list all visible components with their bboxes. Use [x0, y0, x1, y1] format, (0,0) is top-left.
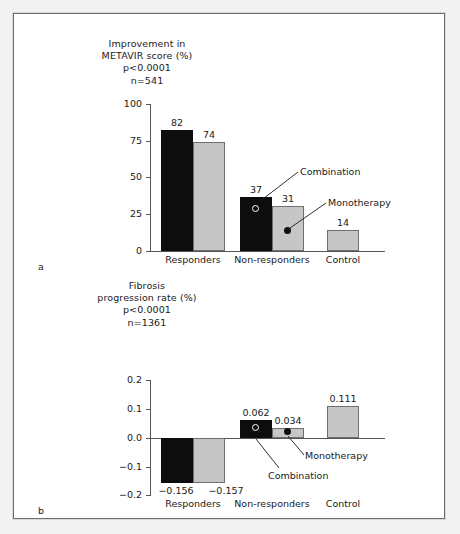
panel-a-annotation-monotherapy: Monotherapy [328, 197, 391, 208]
panel-a-category-nonresponders: Non-responders [227, 254, 317, 265]
figure-frame: Improvement in METAVIR score (%) p<0.000… [13, 13, 445, 519]
panel-a-letter: a [38, 261, 44, 272]
panel-a-category-responders: Responders [153, 254, 233, 265]
figure-canvas: Improvement in METAVIR score (%) p<0.000… [22, 22, 436, 510]
panel-a-plot-area: 0 25 50 75 100 82 74 37 31 [22, 22, 436, 272]
panel-b-category-nonresponders: Non-responders [227, 498, 317, 509]
panel-b-leader-lines [22, 272, 436, 512]
panel-b-letter: b [38, 505, 44, 516]
panel-b-annotation-combination: Combination [268, 470, 328, 481]
panel-b-category-control: Control [314, 498, 372, 509]
panel-a-category-control: Control [314, 254, 372, 265]
panel-a-annotation-combination: Combination [300, 166, 360, 177]
panel-b-fibrosis-chart: Fibrosis progression rate (%) p<0.0001 n… [22, 272, 436, 512]
panel-b-plot-area: 0.2 0.1 0.0 −0.1 −0.2 −0.156 −0.157 0.06… [22, 272, 436, 512]
panel-b-annotation-monotherapy: Monotherapy [305, 450, 368, 461]
panel-a-metavir-chart: Improvement in METAVIR score (%) p<0.000… [22, 22, 436, 272]
panel-a-leader-lines [22, 22, 436, 272]
panel-b-category-responders: Responders [153, 498, 233, 509]
